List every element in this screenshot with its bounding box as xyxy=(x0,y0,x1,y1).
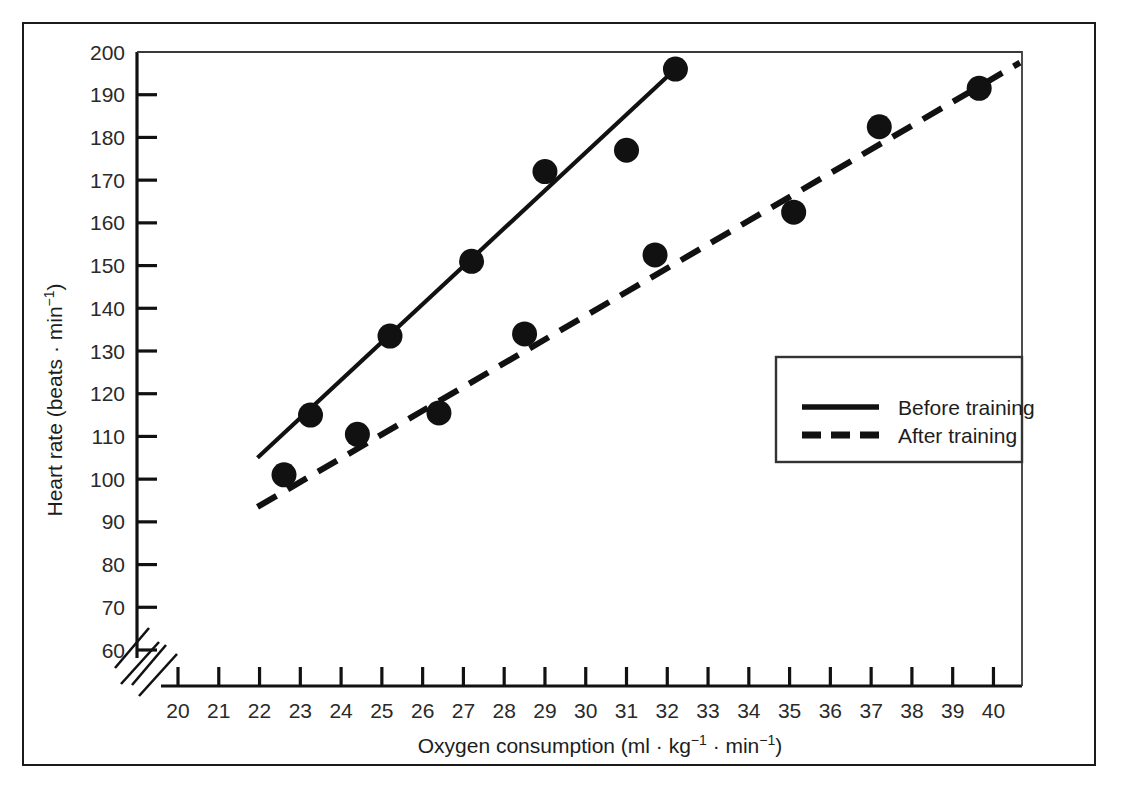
y-tick-label: 120 xyxy=(90,382,125,405)
x-tick-label: 22 xyxy=(248,699,271,722)
x-tick-label: 29 xyxy=(533,699,556,722)
after-training-point-2 xyxy=(512,321,537,346)
x-tick-label: 34 xyxy=(737,699,761,722)
after-training-point-3 xyxy=(643,242,668,267)
x-tick-label: 21 xyxy=(207,699,230,722)
figure-container: 6070809010011012013014015016017018019020… xyxy=(0,0,1121,791)
x-tick-label: 36 xyxy=(819,699,842,722)
y-tick-label: 110 xyxy=(92,425,125,448)
before-training-point-1 xyxy=(298,403,323,428)
chart-canvas: 6070809010011012013014015016017018019020… xyxy=(0,0,1121,791)
x-tick-label: 38 xyxy=(900,699,923,722)
x-tick-label: 33 xyxy=(696,699,719,722)
x-tick-label: 27 xyxy=(452,699,475,722)
legend-label-0: Before training xyxy=(898,396,1035,419)
after-training-point-5 xyxy=(867,114,892,139)
y-axis-title: Heart rate (beats · min−1) xyxy=(41,283,66,516)
before-training-point-6 xyxy=(663,57,688,82)
y-tick-label: 140 xyxy=(90,297,125,320)
x-tick-label: 32 xyxy=(656,699,679,722)
x-tick-label: 37 xyxy=(859,699,882,722)
legend-box: Before trainingAfter training xyxy=(776,357,1035,462)
x-tick-label: 23 xyxy=(289,699,312,722)
axis-break-slash-2 xyxy=(121,642,159,684)
after-training-point-0 xyxy=(345,422,370,447)
after-training-point-4 xyxy=(781,200,806,225)
x-tick-label: 40 xyxy=(982,699,1005,722)
after-training-point-6 xyxy=(967,76,992,101)
x-tick-label: 31 xyxy=(615,699,638,722)
y-tick-label: 150 xyxy=(90,254,125,277)
before-training-point-4 xyxy=(532,159,557,184)
y-tick-label: 200 xyxy=(90,41,125,64)
x-tick-label: 30 xyxy=(574,699,597,722)
x-tick-label: 20 xyxy=(166,699,189,722)
before-training-point-5 xyxy=(614,138,639,163)
y-tick-label: 70 xyxy=(102,596,125,619)
x-tick-label: 25 xyxy=(370,699,393,722)
before-training-point-2 xyxy=(378,324,403,349)
y-tick-label: 190 xyxy=(90,83,125,106)
y-tick-label: 90 xyxy=(102,510,125,533)
y-tick-label: 80 xyxy=(102,553,125,576)
before-training-point-3 xyxy=(459,249,484,274)
y-tick-label: 100 xyxy=(90,468,125,491)
x-axis-title: Oxygen consumption (ml · kg−1 · min−1) xyxy=(418,732,783,757)
x-tick-group: 2021222324252627282930313233343536373839… xyxy=(166,667,1005,722)
x-tick-label: 39 xyxy=(941,699,964,722)
axis-break-slash-3 xyxy=(139,654,177,696)
y-tick-label: 170 xyxy=(90,169,125,192)
y-tick-label: 60 xyxy=(102,639,125,662)
legend-label-1: After training xyxy=(898,424,1017,447)
x-tick-label: 24 xyxy=(329,699,353,722)
x-tick-label: 35 xyxy=(778,699,801,722)
y-tick-label: 180 xyxy=(90,126,125,149)
y-tick-group: 6070809010011012013014015016017018019020… xyxy=(90,41,157,662)
y-tick-label: 160 xyxy=(90,211,125,234)
y-tick-label: 130 xyxy=(90,340,125,363)
x-tick-label: 26 xyxy=(411,699,434,722)
x-tick-label: 28 xyxy=(493,699,516,722)
after-training-point-1 xyxy=(426,400,451,425)
before-training-point-0 xyxy=(272,462,297,487)
